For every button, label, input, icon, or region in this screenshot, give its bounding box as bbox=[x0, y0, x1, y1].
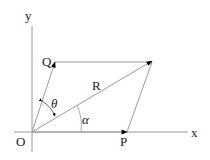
vector-diagram: y x O Q P R θ α bbox=[0, 0, 210, 160]
q-label: Q bbox=[42, 54, 52, 69]
origin-label: O bbox=[16, 134, 25, 149]
p-label: P bbox=[120, 134, 127, 149]
y-axis-label: y bbox=[25, 8, 32, 23]
alpha-arc bbox=[77, 105, 81, 132]
vector-r bbox=[32, 61, 152, 132]
r-label: R bbox=[92, 78, 101, 93]
x-axis-label: x bbox=[191, 125, 198, 140]
theta-label: θ bbox=[51, 96, 58, 111]
p-to-r-side bbox=[127, 62, 152, 132]
alpha-label: α bbox=[82, 112, 90, 127]
